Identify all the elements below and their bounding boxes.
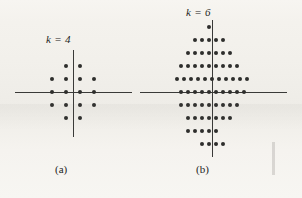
page-edge-note <box>272 142 302 175</box>
constellation-point <box>221 103 225 107</box>
constellation-point <box>207 103 211 107</box>
edge-note-line <box>272 142 302 153</box>
panel-a-k-label: k = 4 <box>46 33 71 45</box>
constellation-point <box>189 77 193 81</box>
constellation-point <box>64 90 68 94</box>
constellation-point <box>78 90 82 94</box>
constellation-point <box>64 77 68 81</box>
constellation-point <box>78 64 82 68</box>
constellation-point <box>228 51 232 55</box>
panel-b-caption: (b) <box>196 163 209 175</box>
constellation-point <box>193 116 197 120</box>
constellation-point <box>228 64 232 68</box>
constellation-point <box>50 103 54 107</box>
constellation-point <box>214 51 218 55</box>
panel-b-vertical-axis <box>212 20 213 157</box>
constellation-point <box>186 51 190 55</box>
constellation-point <box>193 64 197 68</box>
constellation-point <box>228 116 232 120</box>
edge-note-line <box>272 153 302 164</box>
constellation-point <box>186 64 190 68</box>
constellation-point <box>242 90 246 94</box>
constellation-point <box>64 64 68 68</box>
constellation-point <box>235 64 239 68</box>
constellation-point <box>200 142 204 146</box>
panel-a-vertical-axis <box>73 50 74 137</box>
constellation-point <box>186 103 190 107</box>
constellation-point <box>175 77 179 81</box>
constellation-point <box>214 64 218 68</box>
constellation-point <box>186 90 190 94</box>
constellation-point <box>179 90 183 94</box>
constellation-point <box>207 90 211 94</box>
constellation-point <box>78 116 82 120</box>
constellation-point <box>207 129 211 133</box>
constellation-point <box>235 103 239 107</box>
constellation-point <box>214 103 218 107</box>
constellation-point <box>200 103 204 107</box>
constellation-point <box>78 77 82 81</box>
constellation-point <box>221 64 225 68</box>
constellation-point <box>64 116 68 120</box>
constellation-point <box>179 103 183 107</box>
constellation-point <box>200 51 204 55</box>
constellation-point <box>200 90 204 94</box>
constellation-point <box>207 116 211 120</box>
constellation-point <box>221 90 225 94</box>
constellation-point <box>200 64 204 68</box>
constellation-point <box>221 116 225 120</box>
constellation-point <box>228 90 232 94</box>
constellation-point <box>193 90 197 94</box>
constellation-point <box>186 116 190 120</box>
constellation-point <box>92 77 96 81</box>
constellation-point <box>214 90 218 94</box>
constellation-point <box>200 129 204 133</box>
constellation-point <box>203 77 207 81</box>
panel-b-k-label: k = 6 <box>186 6 211 18</box>
constellation-point <box>64 103 68 107</box>
figure-page: k = 4 (a) k = 6 (b) <box>0 0 302 198</box>
constellation-point <box>214 142 218 146</box>
constellation-point <box>214 116 218 120</box>
constellation-point <box>245 77 249 81</box>
constellation-point <box>207 25 211 29</box>
constellation-point <box>200 116 204 120</box>
constellation-point <box>50 90 54 94</box>
constellation-point <box>179 64 183 68</box>
constellation-point <box>200 38 204 42</box>
constellation-point <box>221 51 225 55</box>
constellation-point <box>207 38 211 42</box>
constellation-point <box>231 77 235 81</box>
constellation-point <box>78 103 82 107</box>
constellation-point <box>207 64 211 68</box>
constellation-point <box>224 77 228 81</box>
constellation-point <box>214 129 218 133</box>
constellation-point <box>196 77 200 81</box>
constellation-point <box>182 77 186 81</box>
constellation-point <box>221 142 225 146</box>
constellation-point <box>207 51 211 55</box>
constellation-point <box>221 38 225 42</box>
constellation-point <box>228 103 232 107</box>
constellation-point <box>235 90 239 94</box>
constellation-point <box>193 51 197 55</box>
constellation-point <box>217 77 221 81</box>
constellation-point <box>50 77 54 81</box>
constellation-point <box>193 103 197 107</box>
constellation-point <box>92 103 96 107</box>
edge-note-line <box>272 164 302 175</box>
constellation-point <box>214 38 218 42</box>
constellation-point <box>193 38 197 42</box>
constellation-point <box>193 129 197 133</box>
constellation-point <box>210 77 214 81</box>
constellation-point <box>92 90 96 94</box>
panel-a-caption: (a) <box>55 163 67 175</box>
constellation-point <box>207 142 211 146</box>
constellation-point <box>186 129 190 133</box>
constellation-point <box>238 77 242 81</box>
